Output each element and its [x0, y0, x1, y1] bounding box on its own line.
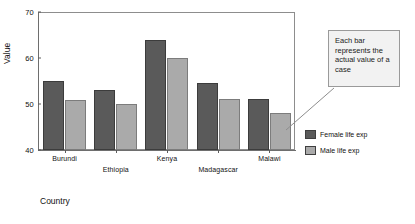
y-tick-label: 40	[25, 146, 38, 155]
x-tick-label: Kenya	[157, 155, 177, 162]
bar[interactable]	[116, 104, 137, 150]
legend-swatch	[305, 146, 316, 155]
bar[interactable]	[248, 99, 269, 150]
bar[interactable]	[197, 83, 218, 150]
bar-group	[90, 12, 141, 150]
x-tick-mark	[167, 150, 168, 153]
bar-group	[193, 12, 244, 150]
y-tick-label: 60	[25, 54, 38, 63]
x-tick-mark	[269, 150, 270, 153]
bar[interactable]	[94, 90, 115, 150]
legend-label: Male life exp	[320, 147, 359, 154]
x-tick-mark	[116, 150, 117, 153]
x-tick-mark	[65, 150, 66, 153]
bar[interactable]	[65, 100, 86, 150]
x-tick-label: Madagascar	[198, 166, 238, 173]
bar[interactable]	[167, 58, 188, 150]
y-tick-label: 50	[25, 100, 38, 109]
bar[interactable]	[219, 99, 240, 150]
legend-item[interactable]: Male life exp	[305, 142, 367, 158]
bar-group	[244, 12, 295, 150]
x-axis-title: Country	[40, 196, 70, 206]
legend-item[interactable]: Female life exp	[305, 126, 367, 142]
bar[interactable]	[43, 81, 64, 150]
y-axis-title: Value	[2, 43, 12, 64]
legend-swatch	[305, 130, 316, 139]
x-tick-label: Malawi	[258, 155, 280, 162]
bar-group	[39, 12, 90, 150]
x-tick-label: Burundi	[52, 155, 77, 162]
bars-layer	[39, 12, 295, 150]
legend-label: Female life exp	[320, 131, 367, 138]
x-tick-label: Ethiopia	[103, 166, 129, 173]
bar-chart: Value 40506070 BurundiEthiopiaKenyaMadag…	[0, 0, 415, 224]
annotation-callout: Each bar represents the actual value of …	[328, 30, 400, 87]
bar[interactable]	[270, 113, 291, 150]
y-tick-label: 70	[25, 8, 38, 17]
legend: Female life expMale life exp	[305, 126, 367, 158]
bar[interactable]	[145, 40, 166, 150]
x-tick-mark	[218, 150, 219, 153]
bar-group	[141, 12, 192, 150]
